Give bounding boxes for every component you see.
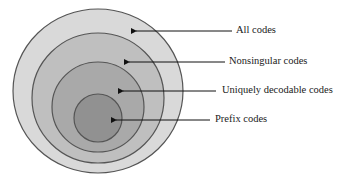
set-prefix-codes bbox=[74, 94, 122, 142]
label-all-codes: All codes bbox=[236, 25, 276, 36]
label-prefix-codes: Prefix codes bbox=[215, 114, 267, 125]
label-uniquely-decodable-codes: Uniquely decodable codes bbox=[222, 85, 333, 96]
label-nonsingular-codes: Nonsingular codes bbox=[229, 56, 307, 67]
